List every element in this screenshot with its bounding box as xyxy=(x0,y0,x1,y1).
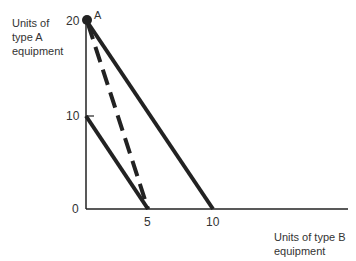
y-tick-label-0: 0 xyxy=(72,202,79,216)
y-axis-label: Units of type A equipment xyxy=(12,16,63,58)
x-tick-label-5: 5 xyxy=(144,215,151,229)
y-tick-label-20: 20 xyxy=(66,14,79,28)
x-axis-label: Units of type B equipment xyxy=(274,230,346,258)
point-a xyxy=(82,15,92,25)
x-tick-label-10: 10 xyxy=(206,215,219,229)
y-tick-label-10: 10 xyxy=(66,109,79,123)
solid-line-10-5 xyxy=(86,116,148,209)
dashed-line-20-5 xyxy=(88,24,148,209)
solid-line-20-10 xyxy=(86,20,213,209)
point-a-label: A xyxy=(94,8,101,22)
